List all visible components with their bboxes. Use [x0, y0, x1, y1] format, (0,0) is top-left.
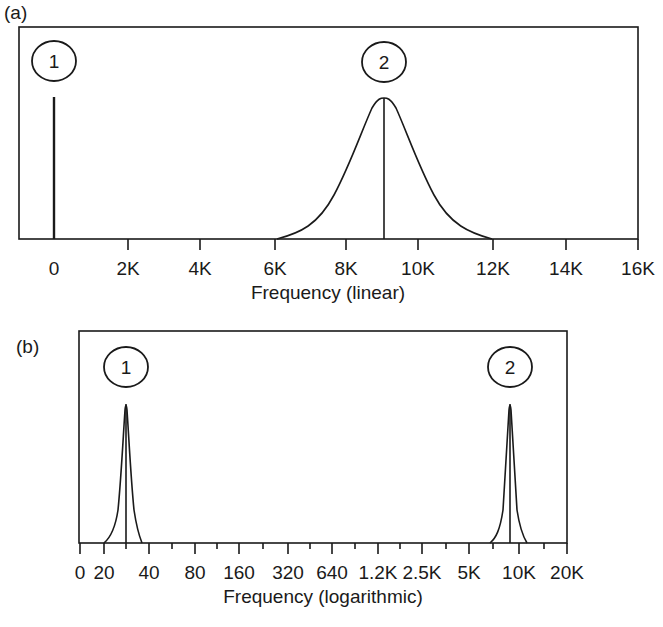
panel-b: (b)	[16, 331, 584, 607]
tick-label: 40	[138, 562, 159, 583]
panel-a-x-axis-label: Frequency (linear)	[251, 282, 405, 303]
tick-label: 160	[223, 562, 255, 583]
panel-b-tick-labels: 0 20 40 80 160 320 640 1.2K 2.5K 5K 10K …	[75, 562, 585, 583]
panel-b-label: (b)	[16, 336, 39, 357]
tick-label: 5K	[457, 562, 481, 583]
marker-1: 1	[32, 41, 76, 81]
tick-label: 320	[272, 562, 304, 583]
svg-text:1: 1	[121, 357, 132, 378]
tick-label: 8K	[334, 258, 358, 279]
panel-a: (a) 0 2K 4K 6K 8K 10K 12K 14K 16K Freque…	[4, 2, 655, 303]
marker-2: 2	[362, 42, 406, 82]
tick-label: 10K	[401, 258, 435, 279]
tick-label: 2.5K	[402, 562, 441, 583]
panel-a-ticks	[128, 239, 638, 250]
tick-label: 0	[49, 258, 60, 279]
tick-label: 14K	[549, 258, 583, 279]
marker-1: 1	[104, 347, 148, 387]
panel-a-tick-labels: 0 2K 4K 6K 8K 10K 12K 14K 16K	[49, 258, 656, 279]
tick-label: 1.2K	[358, 562, 397, 583]
tick-label: 4K	[188, 258, 212, 279]
panel-a-frame	[19, 27, 638, 239]
series-1-peak	[104, 406, 142, 544]
tick-label: 0	[75, 562, 86, 583]
tick-label: 2K	[116, 258, 140, 279]
series-2-peak	[490, 406, 527, 544]
tick-label: 80	[184, 562, 205, 583]
tick-label: 6K	[263, 258, 287, 279]
panel-b-x-axis-label: Frequency (logarithmic)	[223, 586, 423, 607]
tick-label: 640	[316, 562, 348, 583]
tick-label: 16K	[621, 258, 655, 279]
svg-text:2: 2	[379, 52, 390, 73]
tick-label: 20K	[550, 562, 584, 583]
svg-text:1: 1	[49, 51, 60, 72]
svg-text:2: 2	[505, 357, 516, 378]
tick-label: 12K	[476, 258, 510, 279]
tick-label: 20	[93, 562, 114, 583]
marker-2: 2	[488, 347, 532, 387]
panel-a-label: (a)	[4, 2, 27, 23]
panel-b-ticks	[80, 543, 567, 554]
figure: (a) 0 2K 4K 6K 8K 10K 12K 14K 16K Freque…	[0, 0, 663, 627]
tick-label: 10K	[502, 562, 536, 583]
